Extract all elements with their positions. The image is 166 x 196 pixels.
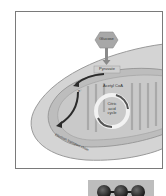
acetyl-coa-label: Acetyl CoA xyxy=(99,84,127,89)
electron-label: e⁻ xyxy=(77,89,83,94)
molecule-thumbnail[interactable] xyxy=(88,180,154,196)
cell-diagram xyxy=(16,12,163,169)
pyruvate-label: Pyruvate xyxy=(94,67,120,72)
molecule-icon xyxy=(88,180,154,196)
diagram-frame: Glucose Pyruvate Acetyl CoA Citric acid … xyxy=(15,11,163,169)
citric-acid-cycle-label: Citric acid cycle xyxy=(104,102,120,116)
glucose-label: Glucose xyxy=(95,37,118,42)
